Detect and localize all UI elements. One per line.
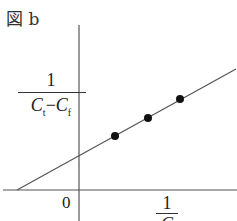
minus-operator: − bbox=[46, 95, 56, 115]
data-point bbox=[111, 132, 119, 140]
fraction-bar bbox=[18, 92, 86, 93]
x-label-numerator: 1 bbox=[156, 194, 178, 212]
origin-label: 0 bbox=[62, 193, 71, 213]
data-point bbox=[144, 114, 152, 122]
y-label-denominator: Ct−Cf bbox=[12, 95, 90, 123]
y-axis-label: 1 Ct−Cf bbox=[12, 70, 90, 123]
data-point bbox=[176, 95, 184, 103]
y-label-numerator: 1 bbox=[12, 70, 90, 90]
subscript-f: f bbox=[68, 107, 71, 118]
x-axis-label: 1 C bbox=[156, 194, 178, 221]
c-symbol: C bbox=[56, 95, 68, 115]
x-label-denominator: C bbox=[156, 215, 178, 221]
c-symbol: C bbox=[31, 95, 43, 115]
